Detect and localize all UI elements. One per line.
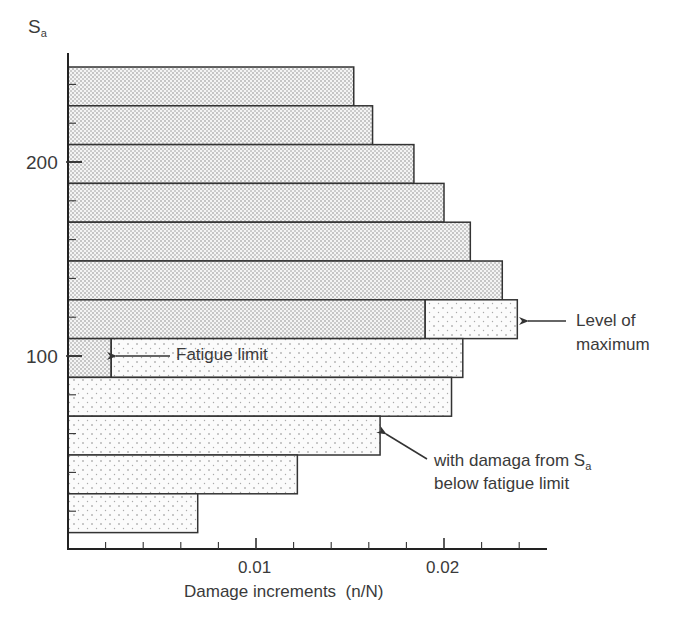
bar-sparse-sa-40 <box>68 455 297 494</box>
bar-dense-sa-240 <box>68 67 354 106</box>
bar-dense-sa-200 <box>68 145 414 184</box>
fatigue-limit-label: Fatigue limit <box>176 345 268 365</box>
below-fatigue-label-line1: with damaga from Sa <box>434 451 591 471</box>
bar-dense-sa-160 <box>68 222 470 261</box>
x-tick-label-001: 0.01 <box>238 558 271 578</box>
below-fatigue-label-line2: below fatigue limit <box>434 474 569 494</box>
y-tick-label-100: 100 <box>26 346 58 368</box>
x-tick-label-002: 0.02 <box>426 558 459 578</box>
bar-sparse-sa-80 <box>68 377 452 416</box>
bar-dense-sa-180 <box>68 183 444 222</box>
bar-sparse-sa-60 <box>68 416 380 455</box>
bar-dense-sa-140 <box>68 261 502 300</box>
bar-sparse-sa-20 <box>68 494 198 533</box>
x-axis-title: Damage increments (n/N) <box>184 582 383 602</box>
below-fatigue-label-sub: a <box>585 460 591 472</box>
below-fatigue-arrow <box>386 434 427 459</box>
y-axis-title-sub: a <box>41 27 47 39</box>
y-tick-label-200: 200 <box>26 152 58 174</box>
y-axis-title: Sa <box>28 16 47 38</box>
bar-sparse-sa-100 <box>111 339 463 378</box>
bar-sparse-sa-120 <box>425 300 517 339</box>
y-axis-title-main: S <box>28 16 41 37</box>
level-of-maximum-label-line1: Level of <box>576 311 636 331</box>
bar-dense-sa-100 <box>68 339 111 378</box>
bar-dense-sa-220 <box>68 106 373 145</box>
level-of-maximum-label-line2: maximum <box>576 335 650 355</box>
below-fatigue-label-main: with damaga from S <box>434 451 585 470</box>
bar-dense-sa-120 <box>68 300 425 339</box>
